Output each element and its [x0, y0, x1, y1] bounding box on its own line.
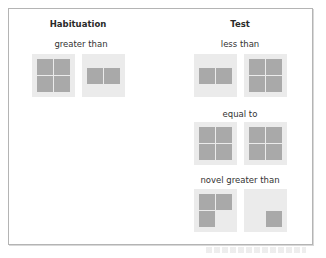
- square-shape: [249, 127, 265, 143]
- square-shape: [199, 194, 215, 210]
- square-shape: [199, 127, 215, 143]
- square-shape: [54, 59, 70, 75]
- test-card-four-squares: [194, 122, 237, 165]
- square-shape: [266, 59, 282, 75]
- square-shape: [249, 144, 265, 160]
- habituation-title: Habituation: [28, 19, 128, 29]
- square-shape: [87, 68, 103, 84]
- habituation-card-four-squares: [32, 54, 75, 97]
- square-shape: [199, 211, 215, 227]
- square-shape: [104, 68, 120, 84]
- square-shape: [266, 144, 282, 160]
- square-shape: [54, 76, 70, 92]
- test-card-four-squares: [244, 122, 287, 165]
- habituation-row-label: greater than: [26, 39, 136, 49]
- faint-caption: [206, 247, 306, 253]
- test-row-label-2: equal to: [185, 109, 295, 119]
- square-shape: [216, 194, 232, 210]
- test-card-two-squares: [194, 54, 237, 97]
- square-shape: [266, 76, 282, 92]
- square-shape: [249, 59, 265, 75]
- test-card-one-square: [244, 189, 287, 232]
- square-shape: [37, 76, 53, 92]
- test-title: Test: [190, 19, 290, 29]
- square-shape: [266, 127, 282, 143]
- square-shape: [216, 144, 232, 160]
- test-row-label-3: novel greater than: [185, 175, 295, 185]
- habituation-card-two-squares: [82, 54, 125, 97]
- test-card-three-squares: [194, 189, 237, 232]
- square-shape: [199, 144, 215, 160]
- square-shape: [216, 68, 232, 84]
- test-row-label-1: less than: [185, 39, 295, 49]
- square-shape: [199, 68, 215, 84]
- square-shape: [37, 59, 53, 75]
- square-shape: [249, 76, 265, 92]
- square-shape: [216, 127, 232, 143]
- square-shape: [266, 211, 282, 227]
- test-card-four-squares: [244, 54, 287, 97]
